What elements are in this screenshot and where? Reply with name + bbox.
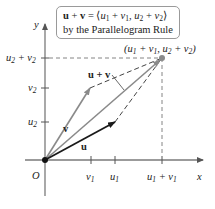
sum-point-label: (u1 + v1, u2 + v2)	[124, 43, 196, 56]
y-tick-label-v2: v2	[28, 82, 37, 95]
x-tick-label-v1: v1	[86, 171, 94, 184]
sum-point	[159, 55, 165, 61]
x-axis-label: x	[196, 171, 202, 182]
y-axis-label: y	[33, 19, 39, 30]
caption-formula: u + v = ⟨u1 + v1, u2 + v2⟩	[63, 9, 179, 23]
caption-subtitle: by the Parallelogram Rule	[63, 23, 179, 37]
vector-v-label: v	[63, 123, 69, 134]
origin-point	[42, 157, 48, 163]
x-tick-label-u1-plus-v1: u1 + v1	[147, 171, 177, 184]
x-tick-label-u1: u1	[110, 171, 119, 184]
sum-label-leader	[112, 75, 124, 90]
vector-u	[45, 122, 115, 160]
origin-label: O	[32, 170, 40, 181]
vector-sum-label: u + v	[88, 69, 111, 80]
vector-u-label: u	[81, 141, 87, 152]
y-tick-label-u2-plus-v2: u2 + v2	[6, 52, 36, 65]
y-tick-label-u2: u2	[28, 116, 37, 129]
caption-box: u + v = ⟨u1 + v1, u2 + v2⟩ by the Parall…	[56, 6, 180, 39]
